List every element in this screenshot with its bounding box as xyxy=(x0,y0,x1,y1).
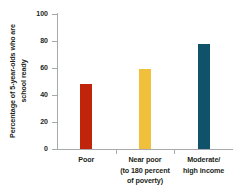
y-axis-title-line-1: Percentage of 5-year-olds who are xyxy=(8,6,19,156)
x-axis-category-labels: PoorNear poor(to 180 percentof poverty)M… xyxy=(57,155,237,192)
x-tick-mark xyxy=(116,150,117,154)
bar xyxy=(80,84,92,149)
x-axis-label: Near poor(to 180 percentof poverty) xyxy=(116,155,175,187)
y-axis-title-line-2: school ready xyxy=(19,6,30,156)
bar-chart: Percentage of 5-year-olds who are school… xyxy=(0,0,237,192)
y-tick-mark xyxy=(52,149,57,150)
x-axis-label-line: high income xyxy=(174,166,233,177)
bar xyxy=(139,69,151,149)
x-tick-mark xyxy=(174,150,175,154)
bars-layer xyxy=(57,14,233,149)
y-tick-label: 60 xyxy=(10,64,48,72)
y-tick-label: 80 xyxy=(10,37,48,45)
x-axis-label-line: Moderate/ xyxy=(174,155,233,166)
x-axis-label-line: Poor xyxy=(57,155,116,166)
bar xyxy=(198,44,210,149)
x-axis-label-line: of poverty) xyxy=(116,176,175,187)
x-axis-label-line: (to 180 percent xyxy=(116,166,175,177)
x-axis-label-line: Near poor xyxy=(116,155,175,166)
y-tick-label: 0 xyxy=(10,145,48,153)
x-axis-label: Poor xyxy=(57,155,116,166)
y-tick: 0 xyxy=(0,149,237,150)
y-axis-title: Percentage of 5-year-olds who are school… xyxy=(8,6,34,156)
y-tick-label: 20 xyxy=(10,118,48,126)
y-tick-label: 40 xyxy=(10,91,48,99)
x-axis-label: Moderate/high income xyxy=(174,155,233,176)
y-tick-label: 100 xyxy=(10,10,48,18)
